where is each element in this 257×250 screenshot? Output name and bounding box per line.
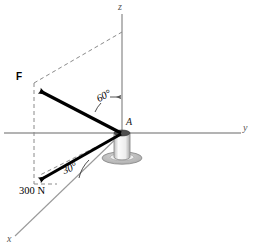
force-magnitude-label-300n: 300 N [19, 186, 45, 197]
point-label-a: A [126, 117, 132, 127]
axis-label-y: y [243, 123, 247, 133]
force-vector-diagram: z y x A F 300 N 60° 30° [0, 0, 257, 250]
dashed-F-to-z [34, 32, 122, 83]
axis-label-z: z [118, 2, 122, 12]
axis-label-x: x [7, 234, 11, 244]
force-label-f: F [16, 72, 22, 82]
